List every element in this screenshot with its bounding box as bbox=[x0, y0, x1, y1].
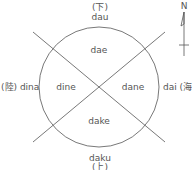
top-kanji: (下) bbox=[92, 2, 108, 12]
quadrant-left: dine bbox=[56, 82, 75, 92]
north-arrow-icon bbox=[179, 12, 189, 56]
quadrant-top: dae bbox=[91, 45, 108, 55]
quadrant-right: dane bbox=[122, 82, 144, 92]
left-label: (陸) dina bbox=[1, 82, 39, 92]
right-label: dai (海) bbox=[163, 82, 192, 92]
quadrant-bottom: dake bbox=[88, 116, 110, 126]
top-label: dau bbox=[92, 12, 109, 22]
compass-label: N bbox=[181, 1, 188, 11]
bottom-kanji: (上) bbox=[92, 162, 108, 170]
